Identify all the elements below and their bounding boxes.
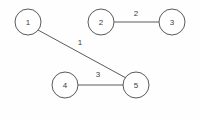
graph-diagram: 1 2 3 1 2 3 4 5 (0, 0, 201, 121)
node-3-label: 3 (170, 18, 175, 27)
edge-weight-2-3: 2 (134, 9, 139, 18)
node-1-label: 1 (26, 18, 31, 27)
graph-canvas-svg: 1 2 3 1 2 3 4 5 (0, 0, 201, 121)
node-5[interactable]: 5 (123, 72, 149, 98)
node-3[interactable]: 3 (159, 9, 185, 35)
edge-weight-4-5: 3 (96, 70, 101, 79)
node-4[interactable]: 4 (52, 72, 78, 98)
node-2-label: 2 (99, 18, 104, 27)
node-5-label: 5 (134, 81, 139, 90)
node-4-label: 4 (63, 81, 68, 90)
edge-weight-1-5: 1 (78, 38, 83, 47)
node-2[interactable]: 2 (88, 9, 114, 35)
node-1[interactable]: 1 (15, 9, 41, 35)
